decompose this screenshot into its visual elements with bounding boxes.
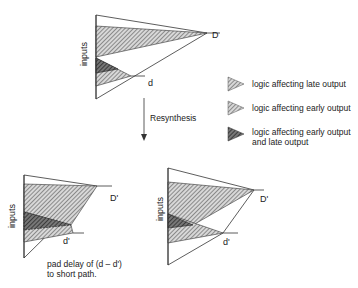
pad-delay-caption-line2: to short path. <box>47 269 97 279</box>
legend-icons <box>228 77 244 141</box>
bottom-left-late-label: D' <box>110 193 118 203</box>
legend-early-label: logic affecting early output <box>252 103 351 113</box>
early-hatch-triangle-icon <box>228 101 244 115</box>
resynthesis-arrow <box>141 98 147 141</box>
bottom-left-inputs-axis-label: inputs <box>7 204 17 228</box>
legend-shared-label-line2: and late output <box>252 137 308 147</box>
top-inputs-axis-label: inputs <box>79 42 89 66</box>
bottom-right-early-label: d' <box>223 237 230 247</box>
legend-shared-label-line1: logic affecting early output <box>252 127 351 137</box>
legend-late-label: logic affecting late output <box>252 79 346 89</box>
bottom-left-early-label: d' <box>63 236 70 246</box>
top-early-label: d <box>148 78 153 88</box>
resynthesis-diagram: inputs D d Resynthesis logic affecting l… <box>0 0 358 288</box>
pad-delay-caption-line1: pad delay of (d – d') <box>47 259 122 269</box>
bottom-right-inputs-axis-label: inputs <box>155 197 165 221</box>
bottom-right-diagram <box>168 168 264 265</box>
bottom-right-late-label: D' <box>260 194 268 204</box>
late-hatch-triangle-icon <box>228 77 244 91</box>
top-diagram <box>96 15 220 99</box>
top-late-label: D <box>212 30 219 40</box>
resynthesis-label: Resynthesis <box>150 113 196 123</box>
shared-dark-triangle-icon <box>228 127 244 141</box>
